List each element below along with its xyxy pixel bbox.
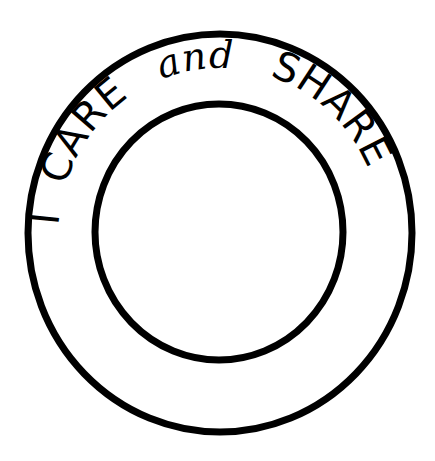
ring-word-care: CARE <box>30 67 135 189</box>
ring-text: I CARE and SHARE <box>21 32 402 227</box>
inner-circle <box>95 104 343 360</box>
badge-svg: I CARE and SHARE <box>0 0 435 461</box>
badge-artwork: I CARE and SHARE <box>0 0 435 461</box>
ring-word-share: SHARE <box>266 41 402 173</box>
